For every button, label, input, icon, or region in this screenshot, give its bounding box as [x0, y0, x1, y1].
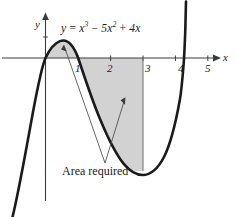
x-tick-label-3: 3	[145, 63, 151, 74]
figure-container: y x y = x3 − 5x2 + 4x 1 2 3 4 5 Area req…	[0, 0, 236, 217]
x-tick-label-4: 4	[178, 63, 184, 74]
equation-label: y = x3 − 5x2 + 4x	[61, 23, 141, 35]
y-axis-label: y	[35, 19, 40, 30]
equation-term3: 4x	[129, 22, 140, 34]
equation-plus: +	[120, 22, 127, 34]
x-tick-label-1: 1	[75, 63, 81, 74]
x-axis-arrowhead	[213, 55, 221, 62]
x-axis-label: x	[223, 52, 228, 63]
equation-equals: =	[69, 22, 76, 34]
x-tick-label-5: 5	[205, 63, 211, 74]
equation-minus: −	[92, 22, 99, 34]
y-axis-arrowhead	[42, 13, 49, 21]
area-required-annotation: Area required	[62, 165, 128, 177]
x-tick-label-2: 2	[107, 63, 113, 74]
equation-term1-exponent: 3	[84, 20, 88, 29]
equation-term2-exponent: 2	[113, 20, 117, 29]
